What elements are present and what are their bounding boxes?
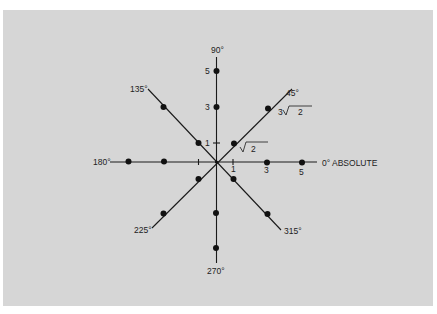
- point-270-5: [213, 245, 219, 251]
- label-270: 270°: [207, 266, 225, 276]
- point-270-3: [213, 210, 219, 216]
- value-3root2-rad: 2: [298, 107, 303, 117]
- value-y3: 3: [205, 102, 210, 112]
- label-135: 135°: [130, 84, 148, 94]
- value-root2: 2: [251, 144, 256, 154]
- point-135-3root2: [161, 104, 167, 110]
- point-315-root2: [231, 176, 237, 182]
- value-y1: 1: [205, 138, 210, 148]
- point-90-3: [214, 104, 220, 110]
- label-45: 45°: [286, 88, 299, 98]
- point-225-3root2: [161, 211, 167, 217]
- value-x5: 5: [299, 167, 304, 177]
- point-90-5: [214, 68, 220, 74]
- axis-diagonal-45-225: [152, 89, 292, 228]
- point-225-root2: [196, 176, 202, 182]
- axis-diagonal-135-315: [148, 89, 281, 230]
- point-180-5: [126, 159, 132, 165]
- point-315-3root2: [265, 211, 271, 217]
- point-0-5: [299, 160, 305, 166]
- value-3root2-coef: 3: [278, 107, 283, 117]
- point-135-root2: [196, 140, 202, 146]
- label-225: 225°: [134, 225, 152, 235]
- label-0-absolute: 0° ABSOLUTE: [322, 158, 378, 168]
- point-180-3: [161, 159, 167, 165]
- label-180: 180°: [93, 157, 111, 167]
- value-y5: 5: [205, 66, 210, 76]
- label-90: 90°: [211, 45, 224, 55]
- origin: [215, 160, 218, 163]
- point-45-root2: [231, 141, 237, 147]
- value-x1: 1: [231, 164, 236, 174]
- value-x3: 3: [264, 165, 269, 175]
- polar-direction-diagram: 90° 45° 135° 180° 0° ABSOLUTE 225° 315° …: [0, 0, 437, 314]
- label-315: 315°: [284, 226, 302, 236]
- point-45-3root2: [265, 106, 271, 112]
